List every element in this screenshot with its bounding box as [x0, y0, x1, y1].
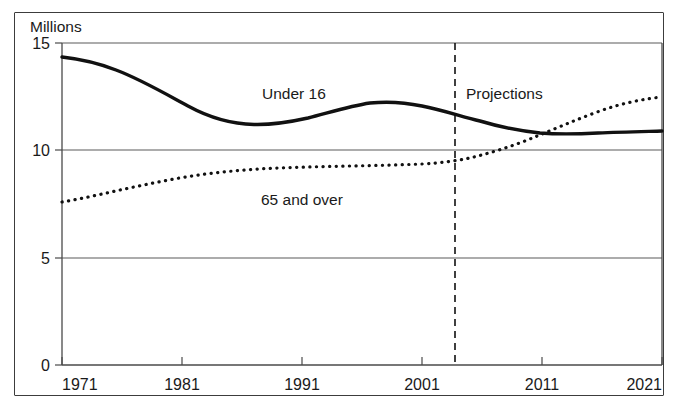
y-tick-label-0: 0: [41, 357, 50, 374]
y-tick-marks: [55, 43, 62, 365]
x-tick-label-2001: 2001: [404, 376, 440, 393]
x-tick-label-1991: 1991: [284, 376, 320, 393]
series-label-under-16: Under 16: [262, 85, 326, 102]
series-label-65-and-over: 65 and over: [261, 191, 343, 208]
x-tick-label-1971: 1971: [62, 376, 98, 393]
x-tick-marks: [62, 357, 662, 365]
x-tick-label-2011: 2011: [525, 376, 560, 393]
x-tick-label-1981: 1981: [164, 376, 200, 393]
y-tick-label-15: 15: [32, 35, 50, 52]
chart-figure: Millions 15 10 5 0 1971 1981 1991 2001 2…: [0, 0, 676, 415]
line-chart-plot: Millions 15 10 5 0 1971 1981 1991 2001 2…: [0, 0, 676, 415]
y-axis-unit-label: Millions: [30, 18, 82, 35]
y-tick-labels: 15 10 5 0: [32, 35, 50, 374]
gridlines: [62, 43, 662, 365]
y-tick-label-5: 5: [41, 250, 50, 267]
projections-label: Projections: [466, 85, 543, 102]
x-tick-label-2021: 2021: [626, 376, 662, 393]
y-tick-label-10: 10: [32, 142, 50, 159]
x-tick-labels: 1971 1981 1991 2001 2011 2021: [62, 376, 662, 393]
axis-spines: [62, 43, 662, 365]
series-line-under-16: [62, 57, 662, 134]
